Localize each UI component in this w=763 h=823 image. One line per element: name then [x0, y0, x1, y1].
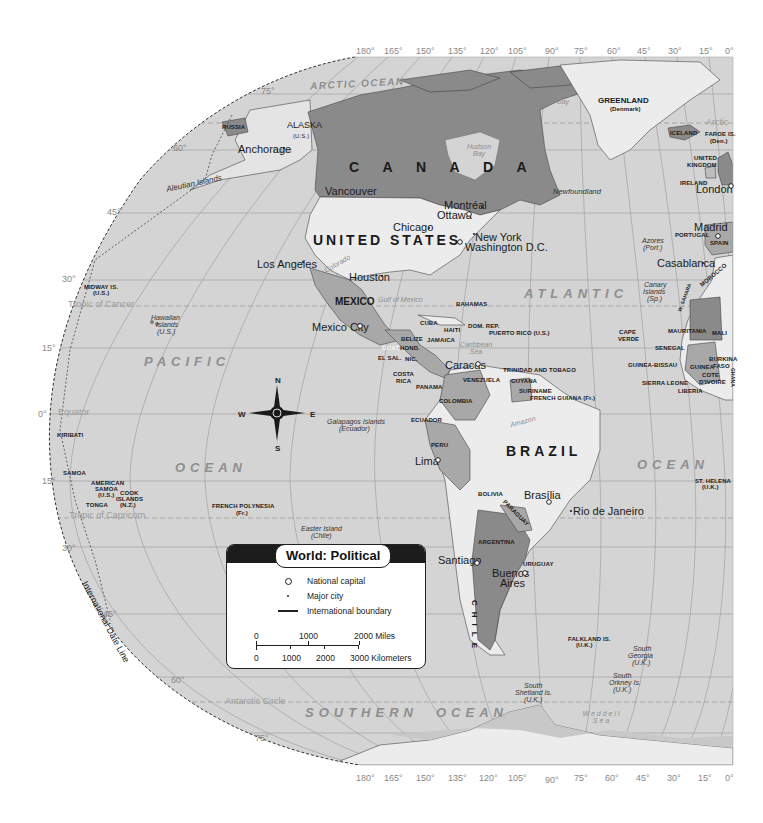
- scale-km-0: 0: [254, 653, 259, 663]
- scale-miles-2000: 2000 Miles: [354, 631, 395, 641]
- scale-tick: [256, 641, 257, 650]
- city-markers: [0, 0, 763, 823]
- scale-miles-1000: 1000: [299, 631, 318, 641]
- compass-e: E: [310, 410, 315, 419]
- scale-tick: [308, 641, 309, 645]
- compass-n: N: [275, 376, 281, 385]
- scale-miles-0: 0: [254, 631, 259, 641]
- legend-label: Major city: [307, 591, 343, 601]
- scale-tick: [324, 645, 325, 649]
- map-legend: World: Political National capital Major …: [226, 544, 426, 669]
- legend-label: National capital: [307, 576, 365, 586]
- open-circle-icon: [285, 578, 292, 585]
- scale-km-1000: 1000: [282, 653, 301, 663]
- scale-km-2000: 2000: [316, 653, 335, 663]
- compass-w: W: [238, 410, 246, 419]
- legend-title: World: Political: [275, 544, 391, 568]
- legend-label: International boundary: [307, 606, 392, 616]
- scale-tick: [358, 645, 359, 649]
- boundary-line-icon: [278, 610, 298, 612]
- scale-km-3000: 3000 Kilometers: [350, 653, 411, 663]
- compass-s: S: [275, 444, 280, 453]
- dot-icon: [287, 595, 289, 597]
- scale-tick: [290, 645, 291, 649]
- scale-line: [256, 645, 359, 646]
- scale-tick: [359, 641, 360, 645]
